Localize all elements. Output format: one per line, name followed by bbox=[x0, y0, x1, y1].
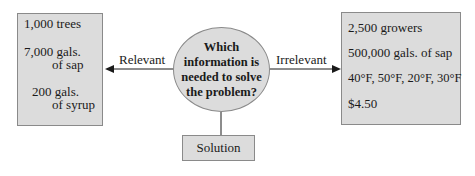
relevant-item-sap-line2: of sap bbox=[52, 58, 83, 72]
irrelevant-item: 40°F, 50°F, 20°F, 30°F bbox=[348, 71, 462, 85]
unit: trees bbox=[57, 16, 82, 31]
relevant-item-trees: 1,000 trees bbox=[24, 17, 81, 31]
irrelevant-item: $4.50 bbox=[348, 97, 377, 111]
value: 1,000 bbox=[24, 16, 53, 31]
question-line: the problem? bbox=[173, 85, 270, 100]
irrelevant-label: Irrelevant bbox=[276, 52, 327, 68]
question-line: information is bbox=[173, 55, 270, 70]
irrelevant-item: 2,500 growers bbox=[348, 21, 422, 35]
value: 7,000 bbox=[24, 44, 53, 59]
question-line: Which bbox=[173, 40, 270, 55]
solution-label: Solution bbox=[182, 141, 255, 155]
arrow-left-icon bbox=[105, 65, 114, 73]
question-text: Which information is needed to solve the… bbox=[173, 40, 270, 100]
irrelevant-item: 500,000 gals. of sap bbox=[348, 46, 452, 60]
arrow-right-icon bbox=[332, 65, 341, 73]
question-line: needed to solve bbox=[173, 70, 270, 85]
value: 200 bbox=[32, 84, 52, 99]
relevant-label: Relevant bbox=[119, 52, 165, 68]
relevant-item-syrup-line2: of syrup bbox=[52, 98, 95, 112]
